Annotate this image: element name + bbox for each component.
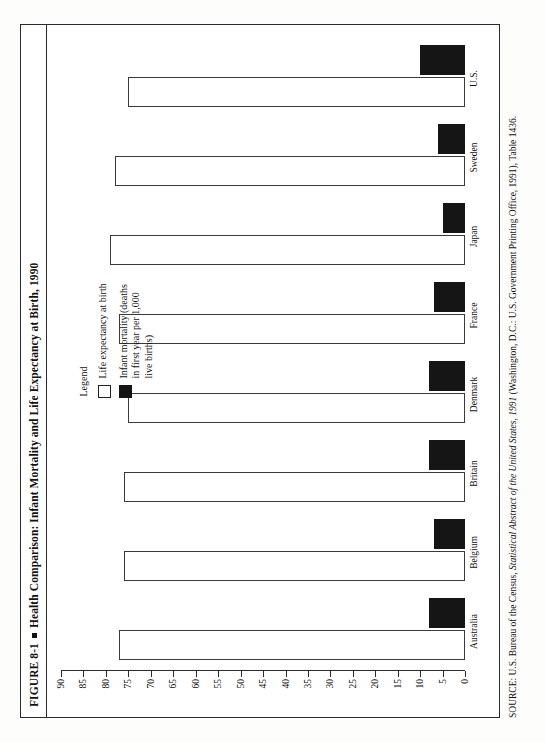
- bar-life-expectancy: [124, 472, 465, 502]
- figure-number: FIGURE 8-1: [28, 643, 40, 707]
- category-axis-labels: AustraliaBelgiumBritainDenmarkFranceJapa…: [465, 39, 495, 671]
- category-label: Belgium: [469, 536, 479, 569]
- axis-tick-label: 70: [146, 679, 156, 689]
- axis-tick-mark: [443, 671, 444, 677]
- axis-tick-label: 10: [415, 679, 425, 689]
- axis-tick-mark: [420, 671, 421, 677]
- axis-tick-mark: [465, 671, 466, 677]
- bar-group: [61, 434, 465, 513]
- axis-tick-mark: [83, 671, 84, 677]
- source-title-italic: Statistical Abstract of the United State…: [508, 397, 518, 570]
- figure-block: FIGURE 8-1Health Comparison: Infant Mort…: [20, 24, 520, 718]
- axis-tick-mark: [263, 671, 264, 677]
- axis-tick-label: 35: [303, 679, 313, 689]
- category-label: U.S.: [469, 70, 479, 87]
- legend-label-infant-mortality: Infant mortality (deaths in first year p…: [118, 284, 156, 378]
- axis-tick-label: 15: [393, 679, 403, 689]
- axis-tick-mark: [106, 671, 107, 677]
- bar-group: [61, 197, 465, 276]
- axis-tick-mark: [173, 671, 174, 677]
- axis-tick-label: 90: [56, 679, 66, 689]
- axis-tick-label: 45: [258, 679, 268, 689]
- axis-tick-mark: [286, 671, 287, 677]
- axis-tick-label: 60: [191, 679, 201, 689]
- category-label: Britain: [469, 460, 479, 486]
- axis-tick-mark: [353, 671, 354, 677]
- bar-infant-mortality: [429, 440, 465, 470]
- axis-tick-label: 20: [370, 679, 380, 689]
- category-label: Japan: [469, 226, 479, 248]
- legend-swatch-white-icon: [98, 385, 111, 398]
- chart-legend: Legend Life expectancy at birth Infant m…: [78, 283, 162, 397]
- axis-tick-mark: [61, 671, 62, 677]
- source-suffix: (Washington, D.C.: U.S. Government Print…: [508, 116, 518, 397]
- bar-infant-mortality: [429, 598, 465, 628]
- axis-tick-label: 5: [438, 679, 448, 684]
- bar-infant-mortality: [443, 203, 465, 233]
- bullet-square-icon: [32, 633, 37, 638]
- bar-infant-mortality: [438, 124, 465, 154]
- axis-tick-label: 75: [123, 679, 133, 689]
- rotated-figure-stage: FIGURE 8-1Health Comparison: Infant Mort…: [0, 0, 546, 742]
- bar-group: [61, 39, 465, 118]
- source-prefix: SOURCE: U.S. Bureau of the Census,: [508, 570, 518, 718]
- bar-infant-mortality: [429, 361, 465, 391]
- plot-frame: 051015202530354045505560657075808590 Aus…: [46, 24, 500, 718]
- axis-tick-mark: [330, 671, 331, 677]
- axis-tick-label: 25: [348, 679, 358, 689]
- axis-tick-mark: [308, 671, 309, 677]
- value-axis-ticks: [61, 670, 465, 677]
- axis-tick-label: 80: [101, 679, 111, 689]
- bar-infant-mortality: [434, 282, 465, 312]
- legend-item-life: Life expectancy at birth: [97, 283, 111, 397]
- bar-infant-mortality: [434, 519, 465, 549]
- bar-group: [61, 118, 465, 197]
- legend-item-mortality: Infant mortality (deaths in first year p…: [118, 283, 156, 397]
- legend-label-life-expectancy: Life expectancy at birth: [97, 283, 110, 378]
- axis-tick-mark: [151, 671, 152, 677]
- bar-life-expectancy: [110, 235, 465, 265]
- bar-life-expectancy: [128, 393, 465, 423]
- figure-page: FIGURE 8-1Health Comparison: Infant Mort…: [0, 0, 546, 742]
- page-title: Health Comparison: Infant Mortality and …: [28, 263, 40, 628]
- bar-life-expectancy: [115, 156, 465, 186]
- axis-tick-mark: [218, 671, 219, 677]
- category-label: Sweden: [469, 142, 479, 172]
- axis-tick-mark: [128, 671, 129, 677]
- source-note: SOURCE: U.S. Bureau of the Census, Stati…: [507, 28, 520, 718]
- legend-swatch-black-icon: [119, 385, 132, 398]
- axis-tick-label: 65: [168, 679, 178, 689]
- axis-tick-mark: [196, 671, 197, 677]
- axis-tick-label: 50: [236, 679, 246, 689]
- axis-tick-label: 85: [78, 679, 88, 689]
- value-axis-labels: 051015202530354045505560657075808590: [61, 677, 465, 703]
- figure-title-band: FIGURE 8-1Health Comparison: Infant Mort…: [20, 24, 46, 718]
- bar-group: [61, 513, 465, 592]
- axis-tick-label: 30: [325, 679, 335, 689]
- legend-heading: Legend: [78, 283, 91, 397]
- bar-life-expectancy: [124, 551, 465, 581]
- axis-tick-mark: [375, 671, 376, 677]
- bar-infant-mortality: [420, 45, 465, 75]
- bar-life-expectancy: [119, 630, 465, 660]
- axis-tick-label: 0: [460, 679, 470, 684]
- axis-tick-mark: [241, 671, 242, 677]
- axis-tick-mark: [398, 671, 399, 677]
- category-label: France: [469, 303, 479, 329]
- category-label: Denmark: [469, 377, 479, 412]
- bar-group: [61, 592, 465, 671]
- axis-tick-label: 40: [281, 679, 291, 689]
- plot-area: 051015202530354045505560657075808590 Aus…: [61, 39, 495, 703]
- bar-life-expectancy: [119, 314, 465, 344]
- category-label: Australia: [469, 614, 479, 649]
- bar-life-expectancy: [128, 77, 465, 107]
- axis-tick-label: 55: [213, 679, 223, 689]
